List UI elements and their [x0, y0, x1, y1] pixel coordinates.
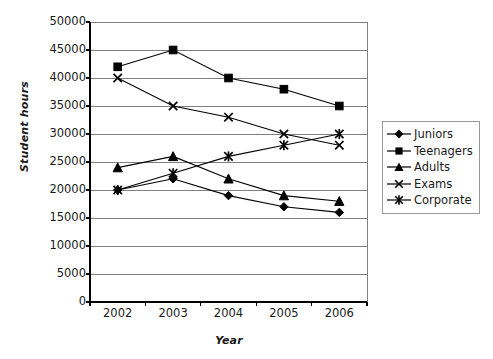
asterisk-marker-icon: [386, 193, 412, 207]
x-tick-label: 2002: [90, 306, 146, 320]
legend-item-corporate[interactable]: Corporate: [386, 192, 473, 209]
legend-item-exams[interactable]: Exams: [386, 176, 473, 193]
legend-label: Teenagers: [412, 144, 473, 158]
legend-item-juniors[interactable]: Juniors: [386, 126, 473, 143]
legend-label: Corporate: [412, 193, 472, 207]
x-tick-label: 2005: [256, 306, 312, 320]
x-tick-label: 2003: [145, 306, 201, 320]
legend-item-adults[interactable]: Adults: [386, 159, 473, 176]
legend-label: Exams: [412, 177, 452, 191]
triangle-marker-icon: [386, 160, 412, 174]
legend-label: Juniors: [412, 127, 453, 141]
chart-figure: Student hours 05000100001500020000250003…: [0, 0, 493, 359]
series-exams: [114, 74, 344, 150]
legend-label: Adults: [412, 160, 450, 174]
chart-legend: Juniors Teenagers Adults Exams: [382, 121, 480, 214]
diamond-marker-icon: [386, 127, 412, 141]
legend-item-teenagers[interactable]: Teenagers: [386, 143, 473, 160]
x-axis-title: Year: [90, 334, 368, 347]
x-tick-label: 2004: [201, 306, 257, 320]
square-marker-icon: [386, 144, 412, 158]
x-tick-label: 2006: [311, 306, 367, 320]
cross-marker-icon: [386, 177, 412, 191]
